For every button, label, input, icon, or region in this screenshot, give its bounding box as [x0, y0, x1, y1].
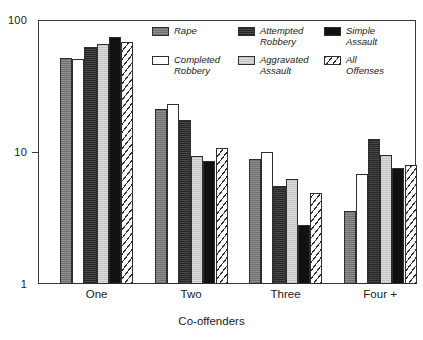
bar	[310, 193, 322, 284]
bar	[97, 44, 109, 284]
bar	[392, 168, 404, 284]
bar	[155, 109, 167, 284]
bar	[109, 37, 121, 285]
bar	[298, 225, 310, 284]
legend-label: Attempted Robbery	[260, 26, 303, 47]
legend-item: Simple Assault	[324, 26, 404, 55]
bar	[121, 42, 133, 284]
bar	[273, 186, 285, 284]
bar	[261, 152, 273, 284]
legend-swatch	[324, 27, 341, 36]
legend-swatch	[324, 56, 341, 65]
y-tick-label: 10	[14, 147, 27, 158]
bar	[179, 120, 191, 284]
legend-label: Aggravated Assault	[260, 55, 309, 76]
legend-swatch	[152, 27, 169, 36]
x-tick-label: One	[86, 288, 108, 301]
legend-item: Aggravated Assault	[238, 55, 324, 84]
bar	[216, 148, 228, 284]
x-tick-label: Three	[271, 288, 301, 301]
legend-label: Simple Assault	[346, 26, 377, 47]
bar	[368, 139, 380, 284]
legend-swatch	[152, 56, 169, 65]
bar	[344, 211, 356, 284]
x-tick-label: Two	[181, 288, 202, 301]
legend-label: Rape	[174, 26, 197, 37]
legend-swatch	[238, 27, 255, 36]
chart-legend: RapeAttempted RobberySimple AssaultCompl…	[152, 26, 404, 86]
legend-item: All Offenses	[324, 55, 404, 84]
bar	[167, 104, 179, 284]
bar	[84, 47, 96, 284]
bar	[72, 59, 84, 284]
bar	[249, 159, 261, 284]
legend-item: Completed Robbery	[152, 55, 238, 84]
bar	[380, 155, 392, 284]
y-axis: 100101	[0, 20, 38, 284]
chart-root: 100101 RapeAttempted RobberySimple Assau…	[0, 0, 423, 340]
legend-item: Attempted Robbery	[238, 26, 324, 55]
bar	[191, 156, 203, 284]
y-tick-label: 100	[8, 15, 27, 26]
legend-swatch	[238, 56, 255, 65]
legend-label: Completed Robbery	[174, 55, 220, 76]
bar	[203, 161, 215, 284]
bar	[405, 165, 417, 284]
x-axis: OneTwoThreeFour +	[38, 288, 416, 308]
y-tick-label: 1	[21, 279, 27, 290]
bar	[60, 58, 72, 285]
x-tick-label: Four +	[363, 288, 397, 301]
legend-item: Rape	[152, 26, 238, 55]
bar	[356, 174, 368, 284]
x-axis-title: Co-offenders	[0, 315, 423, 327]
bar	[286, 179, 298, 285]
legend-label: All Offenses	[346, 55, 384, 76]
